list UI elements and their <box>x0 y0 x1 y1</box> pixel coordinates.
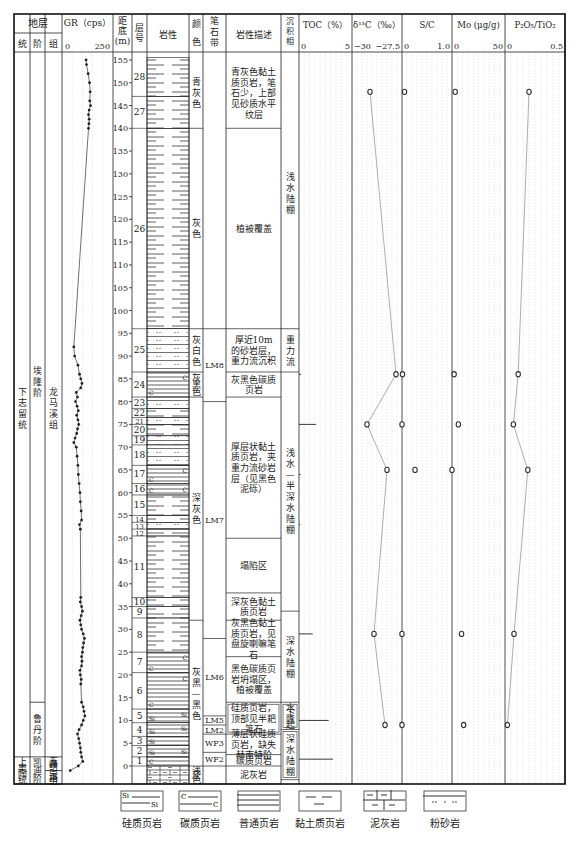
svg-text:棚: 棚 <box>286 204 295 215</box>
svg-text:质页岩，笔: 质页岩，笔 <box>231 77 276 88</box>
data-point <box>385 467 389 472</box>
header-formation: 组 <box>49 38 58 49</box>
svg-text:青灰色黏土: 青灰色黏土 <box>231 66 276 77</box>
header-lithology: 岩性 <box>159 29 177 40</box>
svg-text:Si: Si <box>149 715 155 722</box>
svg-text:黑: 黑 <box>192 700 201 710</box>
svg-text:—: — <box>192 689 201 699</box>
facies-label: 重力流 <box>286 334 295 367</box>
svg-text:阶: 阶 <box>33 773 42 784</box>
depth-tick-label: 135 <box>113 147 128 156</box>
header-color: 色 <box>192 36 201 47</box>
svg-text:重: 重 <box>286 334 295 345</box>
svg-text:泥砾）: 泥砾） <box>240 483 267 494</box>
graptolite-zone-label: LM2 <box>205 726 224 735</box>
depth-tick-label: 50 <box>118 534 128 543</box>
svg-text:色: 色 <box>192 356 201 367</box>
depth-tick-label: 105 <box>113 284 128 293</box>
data-point <box>365 422 369 427</box>
graptolite-zone-label: WF2 <box>205 755 224 764</box>
lithology-bed-silt <box>147 445 189 465</box>
strata-serie: 上奥陶统 <box>18 757 27 784</box>
layer-number: 24 <box>134 380 146 390</box>
data-point <box>383 722 387 727</box>
svg-text:棚: 棚 <box>286 524 295 535</box>
depth-tick-label: 130 <box>113 170 128 179</box>
legend-label: 黏土质页岩 <box>290 815 350 830</box>
layer-number: 2 <box>137 746 143 756</box>
depth-tick-label: 95 <box>118 329 128 338</box>
svg-text:水: 水 <box>286 182 295 193</box>
depth-tick-label: 125 <box>113 193 128 202</box>
lithology-bed-marl <box>147 766 189 784</box>
data-point <box>400 722 404 727</box>
legend-label: 粉砂岩 <box>415 815 475 830</box>
svg-text:C: C <box>182 675 187 682</box>
lithology-legend: SiSi硅质页岩CC碳质页岩普通页岩黏土质页岩泥灰岩粉砂岩 <box>0 790 578 841</box>
depth-tick-label: 10 <box>118 716 128 725</box>
header-graptolite-zone: 带 <box>210 38 219 48</box>
svg-text:Si: Si <box>181 725 187 732</box>
svg-text:重力流砂岩: 重力流砂岩 <box>231 462 276 473</box>
data-point <box>450 467 454 472</box>
facies-label: 深水陆棚 <box>286 636 295 679</box>
svg-text:深灰色黏土: 深灰色黏土 <box>231 596 276 607</box>
svg-text:灰黑色碳质: 灰黑色碳质 <box>231 374 276 385</box>
header-color: 颜 <box>192 18 201 29</box>
svg-text:Si: Si <box>122 792 130 800</box>
svg-text:碳质页岩: 碳质页岩 <box>236 755 272 766</box>
data-point <box>400 631 404 636</box>
svg-text:页岩，缺失: 页岩，缺失 <box>231 739 276 750</box>
svg-text:水: 水 <box>286 458 295 469</box>
layer-number: 15 <box>134 500 146 510</box>
data-point <box>394 372 398 377</box>
header-layer-no: 层 <box>135 23 144 33</box>
pti-axis-min: 0 <box>507 42 512 51</box>
svg-text:色: 色 <box>192 228 201 239</box>
svg-text:棚: 棚 <box>286 668 295 679</box>
header-graptolite-zone: 笔 <box>210 15 219 26</box>
depth-tick-label: 85 <box>118 375 128 384</box>
graptolite-zone-label: LM6 <box>205 673 224 682</box>
layer-number: 18 <box>134 450 146 460</box>
layer-number: 22 <box>134 408 145 418</box>
header-layer-no: 号 <box>135 33 144 43</box>
svg-text:质页岩，夹: 质页岩，夹 <box>231 451 276 462</box>
svg-text:统: 统 <box>18 419 27 430</box>
svg-text:水: 水 <box>286 646 295 657</box>
svg-text:重力流沉积: 重力流沉积 <box>231 355 276 366</box>
depth-tick-label: 20 <box>118 671 128 680</box>
svg-text:Si: Si <box>149 738 155 745</box>
header-facies: 相 <box>286 36 294 46</box>
column-body: 下志留统上奥陶统埃隆阶鲁丹阶凯迪阶龙马溪组五峰组宝塔组1551501451401… <box>14 56 299 786</box>
description-text: 深灰色黏土质页岩 <box>231 596 276 618</box>
svg-text:色: 色 <box>192 386 201 397</box>
svg-text:阶: 阶 <box>33 387 42 398</box>
svg-text:色: 色 <box>192 98 201 109</box>
graptolite-zone-label: WF3 <box>205 739 224 748</box>
layer-number: 27 <box>134 107 146 117</box>
data-point <box>526 467 530 472</box>
layer-number: 19 <box>134 435 146 445</box>
svg-text:隆: 隆 <box>33 376 42 387</box>
svg-text:质页岩，见: 质页岩，见 <box>231 628 276 639</box>
color-label: 浅灰色 <box>192 765 201 785</box>
data-point <box>511 422 515 427</box>
lithology-bed-silt <box>147 418 189 425</box>
depth-tick-label: 90 <box>118 352 128 361</box>
legend-item-marl: 泥灰岩 <box>355 790 415 830</box>
depth-tick-label: 60 <box>118 489 128 498</box>
description-text: 青灰色黏土质页岩，笔石少，上部见砂质水平纹层 <box>231 66 276 119</box>
svg-text:C: C <box>149 665 154 672</box>
svg-text:组: 组 <box>49 419 58 430</box>
strata-serie: 下志留统 <box>18 387 27 430</box>
svg-text:厚层状黏土: 厚层状黏土 <box>231 441 276 452</box>
lithology-bed-clay <box>147 536 189 597</box>
svg-text:Si: Si <box>181 711 187 718</box>
svg-text:石少，上部: 石少，上部 <box>231 87 276 98</box>
svg-text:色: 色 <box>192 514 201 525</box>
sc-axis-min: 0 <box>404 42 409 51</box>
lithology-bed-clay <box>147 495 189 515</box>
svg-text:深: 深 <box>286 636 295 646</box>
legend-item-shale: 普通页岩 <box>229 790 289 830</box>
